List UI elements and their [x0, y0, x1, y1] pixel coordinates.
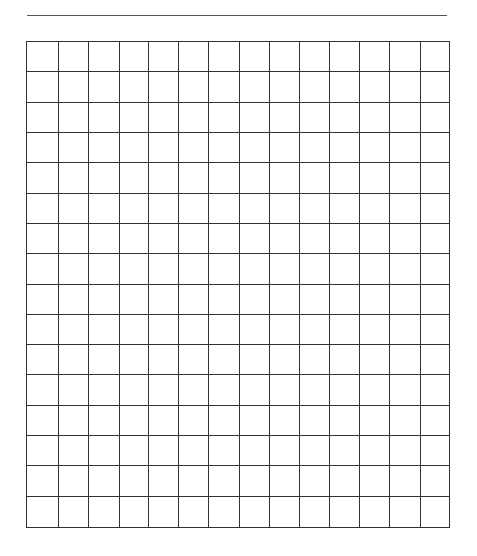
- grid-cell: [270, 375, 300, 405]
- grid-cell: [179, 163, 209, 193]
- grid-cell: [390, 42, 421, 72]
- grid-cell: [59, 133, 89, 163]
- grid-cell: [300, 497, 330, 527]
- grid-cell: [59, 375, 89, 405]
- grid-cell: [360, 194, 390, 224]
- grid-cell: [330, 315, 361, 345]
- grid-cell: [421, 466, 449, 496]
- grid-cell: [421, 375, 449, 405]
- grid-cell: [270, 345, 300, 375]
- grid-cell: [27, 285, 59, 315]
- grid-cell: [120, 285, 150, 315]
- grid-cell: [209, 406, 240, 436]
- grid-cell: [149, 103, 179, 133]
- grid-cell: [270, 103, 300, 133]
- grid-cell: [59, 497, 89, 527]
- grid-cell: [240, 315, 270, 345]
- grid-cell: [89, 285, 120, 315]
- grid-cell: [89, 42, 120, 72]
- grid-cell: [209, 163, 240, 193]
- grid-cell: [89, 224, 120, 254]
- grid-cell: [300, 375, 330, 405]
- grid-cell: [209, 375, 240, 405]
- grid-cell: [149, 133, 179, 163]
- grid-cell: [330, 497, 361, 527]
- grid-cell: [149, 194, 179, 224]
- grid-cell: [27, 194, 59, 224]
- grid-cell: [421, 436, 449, 466]
- grid-cell: [360, 406, 390, 436]
- grid-cell: [27, 163, 59, 193]
- grid-cell: [240, 163, 270, 193]
- grid-cell: [300, 254, 330, 284]
- grid-cell: [120, 133, 150, 163]
- grid-cell: [209, 254, 240, 284]
- grid-cell: [330, 103, 361, 133]
- grid-cell: [240, 72, 270, 102]
- grid-cell: [179, 194, 209, 224]
- grid-cell: [179, 224, 209, 254]
- grid-cell: [89, 194, 120, 224]
- grid-cell: [300, 103, 330, 133]
- grid-cell: [270, 466, 300, 496]
- grid-cell: [89, 254, 120, 284]
- grid-cell: [59, 436, 89, 466]
- grid-cell: [89, 163, 120, 193]
- grid-cell: [27, 375, 59, 405]
- grid-cell: [270, 194, 300, 224]
- grid-cell: [330, 436, 361, 466]
- grid-cell: [240, 133, 270, 163]
- grid-cell: [240, 224, 270, 254]
- grid-cell: [209, 315, 240, 345]
- grid-cell: [209, 133, 240, 163]
- grid-cell: [27, 436, 59, 466]
- grid-cell: [179, 375, 209, 405]
- grid-cell: [89, 436, 120, 466]
- grid-cell: [390, 436, 421, 466]
- grid-cell: [59, 72, 89, 102]
- title-underline: [27, 15, 447, 16]
- grid-cell: [300, 315, 330, 345]
- grid-cell: [149, 285, 179, 315]
- grid-cell: [390, 103, 421, 133]
- grid-cell: [360, 345, 390, 375]
- grid-cell: [421, 406, 449, 436]
- grid-cell: [330, 163, 361, 193]
- grid-cell: [179, 72, 209, 102]
- grid-cell: [240, 466, 270, 496]
- grid-cell: [179, 285, 209, 315]
- grid-cell: [149, 466, 179, 496]
- grid-cell: [360, 466, 390, 496]
- grid-cell: [270, 224, 300, 254]
- grid-cell: [240, 497, 270, 527]
- grid-cell: [421, 285, 449, 315]
- grid-cell: [120, 42, 150, 72]
- grid-cell: [209, 194, 240, 224]
- grid-cell: [240, 103, 270, 133]
- grid-cell: [120, 224, 150, 254]
- grid-cell: [209, 466, 240, 496]
- grid-cell: [270, 254, 300, 284]
- grid-cell: [149, 375, 179, 405]
- grid-cell: [360, 72, 390, 102]
- grid-cell: [27, 224, 59, 254]
- grid-cell: [421, 103, 449, 133]
- grid-cell: [209, 345, 240, 375]
- grid-cell: [330, 72, 361, 102]
- grid-cell: [360, 254, 390, 284]
- grid-cell: [330, 194, 361, 224]
- grid-cell: [120, 254, 150, 284]
- grid-cell: [240, 436, 270, 466]
- grid-cell: [149, 163, 179, 193]
- grid-cell: [27, 315, 59, 345]
- grid-cell: [27, 42, 59, 72]
- grid-cell: [59, 103, 89, 133]
- grid-cell: [209, 285, 240, 315]
- grid-cell: [59, 315, 89, 345]
- grid-cell: [240, 406, 270, 436]
- grid-cell: [270, 406, 300, 436]
- grid-table: [26, 41, 450, 528]
- grid-cell: [421, 345, 449, 375]
- grid-cell: [149, 315, 179, 345]
- grid-cell: [89, 497, 120, 527]
